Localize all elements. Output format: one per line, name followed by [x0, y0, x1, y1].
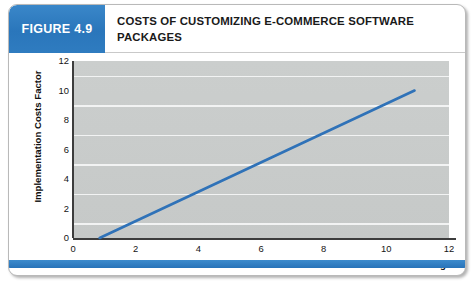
series-line-implementation-cost [100, 91, 415, 239]
data-series-layer [9, 53, 466, 261]
chart-area: Implementation Costs Factor 024681012 02… [9, 53, 466, 261]
figure-number-label: FIGURE 4.9 [21, 22, 92, 36]
figure-number-badge: FIGURE 4.9 [9, 5, 105, 53]
figure-title: COSTS OF CUSTOMIZING E-COMMERCE SOFTWARE… [117, 14, 447, 45]
figure-card: FIGURE 4.9 COSTS OF CUSTOMIZING E-COMMER… [8, 4, 466, 276]
figure-header: FIGURE 4.9 COSTS OF CUSTOMIZING E-COMMER… [9, 5, 465, 53]
footer-accent-bar [9, 260, 465, 268]
